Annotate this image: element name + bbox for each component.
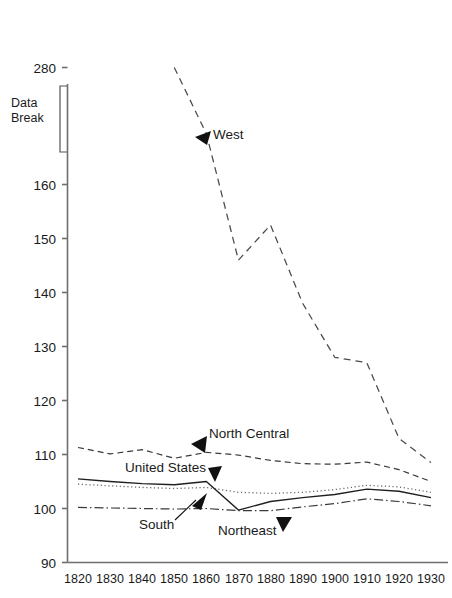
north-central-pointer-icon	[191, 436, 207, 453]
y-axis-ticks	[62, 68, 68, 563]
series-label-united-states: United States	[125, 460, 206, 475]
y-tick-label-140: 140	[33, 286, 56, 301]
x-tick-label-1860: 1860	[192, 572, 220, 586]
y-tick-label-160: 160	[33, 178, 56, 193]
series-line-northeast	[78, 499, 431, 511]
y-tick-label-150: 150	[33, 232, 56, 247]
y-tick-label-110: 110	[34, 448, 56, 463]
y-tick-label-130: 130	[33, 340, 56, 355]
x-tick-label-1830: 1830	[96, 572, 124, 586]
x-tick-label-1840: 1840	[128, 572, 156, 586]
series-line-united-states	[78, 484, 431, 493]
y-tick-label-280: 280	[33, 61, 56, 76]
series-label-west: West	[213, 127, 244, 142]
x-tick-label-1890: 1890	[289, 572, 317, 586]
series-label-south: South	[139, 517, 174, 532]
y-tick-label-90: 90	[41, 556, 56, 571]
series-label-north-central: North Central	[209, 426, 289, 441]
x-tick-label-1880: 1880	[257, 572, 285, 586]
data-break-label-line2: Break	[11, 111, 44, 125]
x-tick-label-1870: 1870	[225, 572, 253, 586]
line-chart-svg: 280 160 150 140 130 120 110 100 90 Data …	[0, 0, 452, 598]
y-tick-label-120: 120	[33, 394, 56, 409]
y-tick-label-100: 100	[33, 502, 56, 517]
west-pointer-icon	[195, 131, 211, 145]
x-tick-label-1820: 1820	[64, 572, 92, 586]
x-tick-label-1910: 1910	[353, 572, 381, 586]
chart-container: 280 160 150 140 130 120 110 100 90 Data …	[0, 0, 452, 598]
data-break-bracket	[60, 86, 67, 152]
x-tick-label-1900: 1900	[321, 572, 349, 586]
united-states-pointer-icon	[208, 466, 222, 482]
data-break-label-line1: Data	[11, 96, 37, 110]
series-line-south	[78, 479, 431, 510]
x-axis-tick-labels: 1820 1830 1840 1850 1860 1870 1880 1890 …	[64, 572, 445, 586]
x-tick-label-1850: 1850	[160, 572, 188, 586]
south-leader-line	[175, 500, 196, 520]
x-tick-label-1920: 1920	[385, 572, 413, 586]
northeast-pointer-icon	[276, 517, 292, 532]
x-tick-label-1930: 1930	[417, 572, 445, 586]
series-label-northeast: Northeast	[218, 523, 277, 538]
